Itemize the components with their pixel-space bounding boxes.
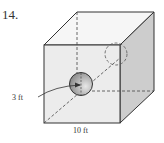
cube-diagram: 3 ft 10 ft [0, 0, 164, 143]
side-length-label: 10 ft [73, 126, 89, 135]
radius-label: 3 ft [12, 93, 24, 102]
